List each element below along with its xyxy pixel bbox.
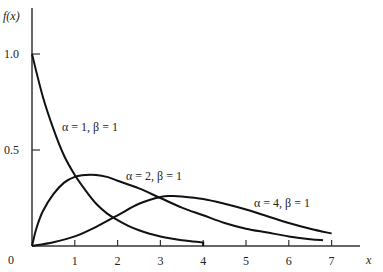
curve-alpha-1 (32, 54, 203, 246)
chart: f(x) x 0 1.00.5 1234567 α = 1, β = 1 α =… (0, 0, 383, 272)
x-axis-label: x (365, 253, 372, 267)
y-tick-label: 0.5 (4, 143, 19, 157)
label-alpha-2: α = 2, β = 1 (126, 169, 182, 183)
x-tick-label: 5 (243, 254, 249, 268)
x-tick-label: 1 (72, 254, 78, 268)
label-alpha-1: α = 1, β = 1 (62, 120, 118, 134)
y-tick-label: 1.0 (4, 47, 19, 61)
y-axis-label: f(x) (3, 9, 20, 23)
x-tick-label: 2 (115, 254, 121, 268)
label-alpha-4: α = 4, β = 1 (254, 196, 310, 210)
x-tick-label: 7 (329, 254, 335, 268)
x-tick-label: 6 (286, 254, 292, 268)
x-tick-label: 3 (157, 254, 163, 268)
origin-label: 0 (8, 253, 14, 267)
x-tick-label: 4 (200, 254, 206, 268)
